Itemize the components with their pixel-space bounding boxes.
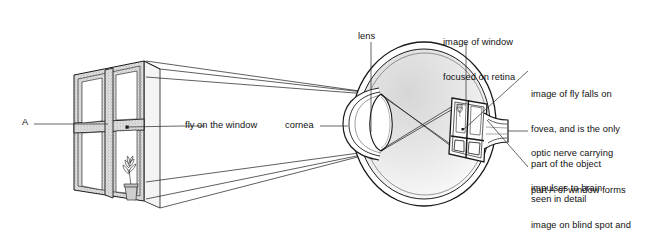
label-fly-on-window: fly on the window [185,120,257,132]
label-optic-nerve-note-line1: optic nerve carrying [531,148,613,160]
label-cornea: cornea [285,120,314,132]
eye-and-window-diagram: A fly on the window cornea lens image of… [0,0,658,236]
label-blind-spot-note-line1: part A of window forms [531,185,631,197]
window-object [74,61,160,208]
optic-nerve [484,113,508,149]
window-side-face [144,61,160,208]
label-fovea-note-line1: image of fly falls on [531,89,620,101]
label-blind-spot-note-line2: image on blind spot and [531,220,631,232]
retina-image-of-window [449,98,487,162]
label-image-of-window-line2: focused on retina [443,72,515,84]
label-part-a: A [22,117,28,129]
label-image-of-window-line1: image of window [443,37,515,49]
label-lens: lens [358,31,375,43]
label-blind-spot-note: part A of window forms image on blind sp… [531,162,631,236]
label-image-of-window: image of window focused on retina [443,14,515,107]
